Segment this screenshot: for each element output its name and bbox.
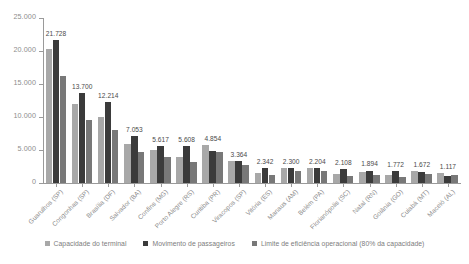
bar-value-label: 5.608 bbox=[178, 136, 195, 143]
bar-group bbox=[202, 18, 223, 183]
x-axis-line bbox=[43, 183, 461, 184]
bar-value-label: 13.700 bbox=[72, 83, 92, 90]
bar bbox=[392, 171, 399, 183]
bar-value-label: 1.772 bbox=[387, 161, 404, 168]
x-axis-tick-mark bbox=[396, 183, 397, 187]
x-axis-tick-mark bbox=[187, 183, 188, 187]
bar bbox=[411, 171, 418, 183]
bar-value-label: 7.053 bbox=[126, 126, 143, 133]
bar bbox=[202, 145, 209, 183]
x-axis-tick-mark bbox=[56, 183, 57, 187]
bar-group bbox=[176, 18, 197, 183]
bar bbox=[190, 162, 197, 183]
bar bbox=[333, 174, 340, 183]
bar bbox=[437, 173, 444, 183]
bar bbox=[418, 172, 425, 183]
bar-value-label: 2.300 bbox=[283, 158, 300, 165]
bar-value-label: 4.854 bbox=[204, 135, 221, 142]
bar-value-label: 21.728 bbox=[46, 30, 66, 37]
x-axis-tick-mark bbox=[213, 183, 214, 187]
x-axis-category-label: Natal (RN) bbox=[350, 188, 377, 215]
bar bbox=[347, 176, 354, 183]
bar bbox=[444, 176, 451, 183]
y-axis-tick-label: 15.000 bbox=[13, 78, 36, 87]
bar bbox=[176, 157, 183, 183]
y-axis-tick-label: 20.000 bbox=[13, 45, 36, 54]
y-axis-tick-label: 10.000 bbox=[13, 111, 36, 120]
bar-value-label: 2.342 bbox=[257, 158, 274, 165]
bar bbox=[307, 168, 314, 183]
bar-group bbox=[411, 18, 432, 183]
legend-swatch bbox=[252, 241, 257, 246]
bar-group bbox=[98, 18, 119, 183]
bar-value-label: 2.108 bbox=[335, 159, 352, 166]
bar bbox=[399, 177, 406, 183]
legend-label: Movimento de passageiros bbox=[152, 240, 234, 247]
bar bbox=[79, 93, 86, 183]
x-axis-tick-mark bbox=[134, 183, 135, 187]
bar bbox=[366, 171, 373, 184]
bar bbox=[235, 161, 242, 183]
x-axis-tick-mark bbox=[370, 183, 371, 187]
bar bbox=[340, 169, 347, 183]
bar bbox=[138, 152, 145, 183]
bar-value-label: 1.894 bbox=[361, 160, 378, 167]
bar bbox=[321, 171, 328, 183]
bar bbox=[228, 161, 235, 183]
bar-group bbox=[72, 18, 93, 183]
plot-area: 21.72813.70012.2147.0535.6175.6084.8543.… bbox=[43, 18, 461, 183]
legend-item[interactable]: Capacidade do terminal bbox=[45, 240, 127, 247]
bar-group bbox=[46, 18, 67, 183]
bar bbox=[359, 172, 366, 183]
x-axis-tick-mark bbox=[291, 183, 292, 187]
bar bbox=[425, 174, 432, 183]
y-axis-tick-label: 0 bbox=[32, 177, 36, 186]
bar bbox=[53, 40, 60, 183]
bar bbox=[86, 120, 93, 183]
legend-label: Capacidade do terminal bbox=[54, 240, 127, 247]
bar bbox=[288, 168, 295, 183]
bar-group bbox=[124, 18, 145, 183]
bar bbox=[209, 151, 216, 183]
bar-group bbox=[437, 18, 458, 183]
bar bbox=[150, 150, 157, 183]
bar bbox=[105, 102, 112, 183]
x-axis-tick-mark bbox=[82, 183, 83, 187]
bar bbox=[124, 144, 131, 183]
bar-group bbox=[228, 18, 249, 183]
bar bbox=[314, 168, 321, 183]
legend-item[interactable]: Limite de eficiência operacional (80% da… bbox=[252, 240, 425, 247]
bar bbox=[269, 175, 276, 183]
legend-swatch bbox=[45, 241, 50, 246]
bar bbox=[242, 165, 249, 183]
bar-group bbox=[150, 18, 171, 183]
bar bbox=[255, 173, 262, 183]
x-axis-tick-mark bbox=[448, 183, 449, 187]
bar-value-label: 2.204 bbox=[309, 158, 326, 165]
bar bbox=[98, 117, 105, 183]
bar bbox=[385, 175, 392, 183]
bar bbox=[157, 146, 164, 183]
legend-label: Limite de eficiência operacional (80% da… bbox=[261, 240, 425, 247]
bar-value-label: 12.214 bbox=[98, 92, 118, 99]
bar bbox=[281, 168, 288, 183]
x-axis-tick-mark bbox=[265, 183, 266, 187]
bar bbox=[451, 175, 458, 183]
bar-value-label: 5.617 bbox=[152, 136, 169, 143]
legend-item[interactable]: Movimento de passageiros bbox=[143, 240, 234, 247]
bar bbox=[295, 171, 302, 183]
x-axis-tick-mark bbox=[422, 183, 423, 187]
bar bbox=[183, 146, 190, 183]
legend-swatch bbox=[143, 241, 148, 246]
y-axis-tick-label: 5.000 bbox=[18, 144, 37, 153]
bar bbox=[164, 157, 171, 183]
bar bbox=[112, 130, 119, 183]
bar-group bbox=[385, 18, 406, 183]
bar bbox=[373, 175, 380, 183]
bar-group bbox=[359, 18, 380, 183]
bar bbox=[46, 49, 53, 183]
bar-value-label: 1.672 bbox=[413, 161, 430, 168]
bar-chart: 05.00010.00015.00020.00025.000 21.72813.… bbox=[0, 0, 469, 264]
bar-value-label: 1.117 bbox=[440, 163, 456, 170]
bar bbox=[262, 168, 269, 183]
